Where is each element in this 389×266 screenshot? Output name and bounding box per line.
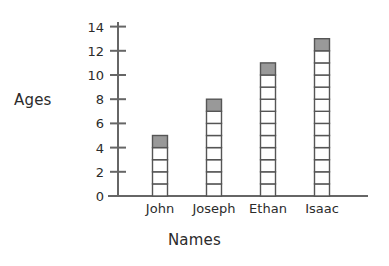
bar[interactable] <box>315 39 330 196</box>
chart-canvas: 02468101214JohnJosephEthanIsaac <box>0 0 389 266</box>
x-axis-title: Names <box>0 231 389 249</box>
bar-segment-top <box>261 63 276 75</box>
bar-segment <box>207 123 222 135</box>
bar-segment <box>153 148 168 160</box>
bar-segment <box>261 75 276 87</box>
bars-group <box>153 39 330 196</box>
x-category-label: Joseph <box>191 201 235 216</box>
bar-segment <box>315 87 330 99</box>
y-tick-label: 10 <box>87 68 104 83</box>
bar-segment <box>153 172 168 184</box>
bar-segment <box>315 148 330 160</box>
bar-chart: 02468101214JohnJosephEthanIsaac Ages Nam… <box>0 0 389 266</box>
bar-segment <box>315 99 330 111</box>
bar-segment <box>207 172 222 184</box>
y-tick-label: 14 <box>87 20 104 35</box>
bar-segment <box>315 160 330 172</box>
bar-segment <box>261 136 276 148</box>
bar-segment <box>261 111 276 123</box>
bar[interactable] <box>261 63 276 196</box>
y-tick-group: 02468101214 <box>87 20 126 204</box>
bar-segment <box>261 160 276 172</box>
bar-segment <box>261 99 276 111</box>
bar-segment-top <box>153 136 168 148</box>
x-category-label: Isaac <box>305 201 339 216</box>
bar-segment <box>261 123 276 135</box>
bar-segment <box>315 184 330 196</box>
y-tick-label: 12 <box>87 44 104 59</box>
bar-segment <box>153 184 168 196</box>
y-tick-label: 8 <box>96 92 104 107</box>
bar-segment-top <box>207 99 222 111</box>
bar-segment <box>315 51 330 63</box>
y-tick-label: 4 <box>96 141 104 156</box>
bar-segment <box>207 148 222 160</box>
bar-segment <box>207 136 222 148</box>
y-tick-label: 0 <box>96 189 104 204</box>
bar-segment <box>207 160 222 172</box>
bar[interactable] <box>153 136 168 197</box>
bar[interactable] <box>207 99 222 196</box>
bar-segment <box>261 184 276 196</box>
y-tick-label: 6 <box>96 116 104 131</box>
bar-segment <box>315 136 330 148</box>
bar-segment <box>261 172 276 184</box>
bar-segment <box>207 111 222 123</box>
y-axis-title: Ages <box>14 91 52 109</box>
bar-segment <box>315 172 330 184</box>
x-category-label: Ethan <box>249 201 287 216</box>
bar-segment <box>315 123 330 135</box>
bar-segment <box>261 87 276 99</box>
bar-segment <box>207 184 222 196</box>
bar-segment-top <box>315 39 330 51</box>
bar-segment <box>315 111 330 123</box>
bar-segment <box>261 148 276 160</box>
x-category-label: John <box>145 201 174 216</box>
bar-segment <box>315 75 330 87</box>
bar-segment <box>315 63 330 75</box>
bar-segment <box>153 160 168 172</box>
y-tick-label: 2 <box>96 165 104 180</box>
